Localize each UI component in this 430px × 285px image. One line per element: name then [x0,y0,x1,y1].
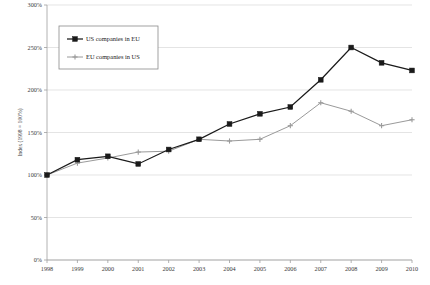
y-axis-label-group: Index (1998 = 100%) [17,108,24,156]
x-tick-label: 2000 [102,265,114,272]
legend-label: US companies in EU [86,35,140,42]
data-point-marker [288,105,293,110]
chart-container: 0%50%100%150%200%250%300% 19981999200020… [0,0,430,285]
legend-label: EU companies in US [86,53,140,60]
data-point-marker [75,157,80,162]
x-tick-label: 2009 [375,265,387,272]
data-point-marker [410,68,415,73]
data-point-marker [45,173,50,178]
x-tick-label: 2005 [254,265,266,272]
x-tick-label: 2007 [315,265,327,272]
x-tick-label: 2001 [132,265,144,272]
line-chart: 0%50%100%150%200%250%300% 19981999200020… [0,0,430,285]
data-point-marker [227,122,232,127]
data-point-marker [105,154,110,159]
y-tick-label: 50% [31,214,42,221]
chart-legend: US companies in EUEU companies in US [59,26,158,69]
y-tick-label: 300% [28,1,42,8]
data-point-marker [379,60,384,65]
x-tick-label: 2003 [193,265,205,272]
x-tick-label: 1998 [41,265,53,272]
y-tick-label: 150% [28,129,42,136]
y-tick-label: 100% [28,171,42,178]
y-axis-label: Index (1998 = 100%) [17,108,24,156]
data-point-marker [166,147,171,152]
x-tick-label: 2006 [284,265,296,272]
y-tick-label: 200% [28,86,42,93]
data-point-marker [197,137,202,142]
legend-box [59,26,158,69]
data-point-marker [136,162,141,167]
data-point-marker [349,45,354,50]
x-tick-label: 2002 [162,265,174,272]
x-tick-label: 1999 [71,265,83,272]
y-tick-label: 250% [28,44,42,51]
x-tick-label: 2008 [345,265,357,272]
x-tick-label: 2010 [406,265,418,272]
data-point-marker [318,77,323,82]
data-point-marker [258,111,263,116]
x-tick-label: 2004 [223,265,235,272]
y-tick-label: 0% [34,256,42,263]
legend-marker-icon [73,37,78,42]
